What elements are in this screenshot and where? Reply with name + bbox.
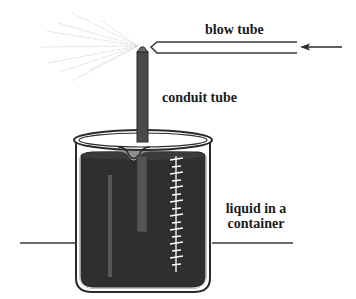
liquid-label-line2: container <box>216 216 296 231</box>
arrow-left-icon <box>300 44 342 51</box>
conduit-tube-label: conduit tube <box>162 90 237 105</box>
blow-tube <box>151 42 297 53</box>
spray-mist <box>40 13 138 81</box>
atomizer-diagram <box>0 0 356 299</box>
blow-tube-label: blow tube <box>205 22 264 37</box>
liquid-label-line1: liquid in a <box>216 201 296 216</box>
conduit-tube <box>137 47 148 232</box>
